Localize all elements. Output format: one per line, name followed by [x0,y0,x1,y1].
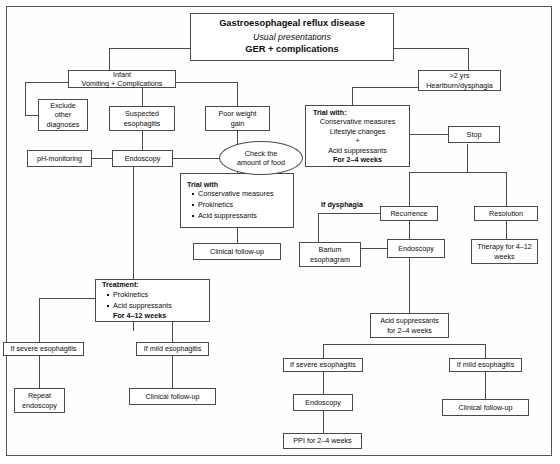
node-over-2-years: >2 yrs Heartburn/dysphagia [418,70,501,91]
connector-acid-branch-right-v [485,344,486,358]
clinical-followup-infant-label: Clinical follow-up [210,247,264,257]
node-recurrence: Recurrence [380,206,438,221]
connector-resolution-to-therapy [506,221,507,239]
over2yrs-line-1: >2 yrs [450,71,470,81]
trial-infant-header: Trial with [184,180,293,190]
trial-infant-item-1: Conservative measures [192,189,274,200]
edge-label-if-dysphagia: If dysphagia [320,200,364,209]
poor-weight-line-1: Poor weight [219,109,257,119]
treatment-header: Treatment: [99,280,209,290]
barium-line-1: Barium [319,245,342,255]
connector-title-to-infant-v2 [109,48,110,70]
repeat-endoscopy-line-2: endoscopy [22,401,57,411]
title-line-3: GER + complications [245,43,338,56]
poor-weight-line-2: gain [231,119,245,129]
connector-endoscopy-to-treatment [133,167,134,279]
connector-endoscopy-to-acid [409,258,410,313]
treatment-footer: For 4–12 weeks [99,311,166,321]
exclude-line-3: diagnoses [47,120,80,130]
connector-recurrence-to-endoscopy [409,221,410,239]
connector-stop-branch-left-v [409,172,410,206]
node-acid-suppressants: Acid suppressants for 2–4 weeks [370,313,449,338]
connector-older-to-trial-v [352,87,353,105]
node-clinical-followup-infant: Clinical follow-up [193,243,281,260]
therapy-line-2: weeks [494,252,514,262]
trial-older-line-2: Lifestyle changes [310,127,405,137]
connector-acid-branch-left-v [323,344,324,358]
stop-label: Stop [467,130,482,140]
connector-barium-to-endoscopy [361,248,387,249]
node-ppi-2-4-weeks: PPI for 2–4 weeks [283,433,362,449]
connector-treatment-down [133,322,134,331]
if-mild-right-label: If mild esophagitis [457,360,515,370]
trial-infant-item-3: Acid suppressants [192,211,274,222]
node-exclude-other-diagnoses: Exclude other diagnoses [38,99,88,131]
endoscopy-left-label: Endoscopy [125,154,161,164]
connector-title-to-older-h [394,48,469,49]
if-mild-left-label: If mild esophagitis [144,344,202,354]
node-resolution: Resolution [474,206,538,221]
trial-older-footer: For 2–4 weeks [310,155,405,165]
connector-acid-branch-h [323,344,486,345]
clinical-followup-left-label: Clinical follow-up [146,392,200,402]
treatment-item-1: Prokinetics [107,290,172,301]
node-if-mild-esophagitis-right: If mild esophagitis [449,358,522,372]
node-if-severe-esophagitis-right: If severe esophagitis [283,358,363,372]
if-severe-right-label: If severe esophagitis [290,360,356,370]
connector-suspected-to-endoscopy [142,131,143,150]
suspected-line-2: esophagitis [124,119,160,129]
title-line-2: Usual presentations [253,31,331,44]
connector-endoscopy-bottom-to-ppi [323,411,324,433]
exclude-line-1: Exclude [50,101,76,111]
infant-line-2: Vomiting + Complications [82,79,163,89]
treatment-list: Prokinetics Acid suppressants [99,290,172,312]
node-endoscopy-left: Endoscopy [112,150,173,167]
connector-infant-to-poor-v [237,82,238,106]
node-trial-with-older: Trial with: Conservative measures Lifest… [305,105,410,167]
node-title-box: Gastroesophageal reflux disease Usual pr… [190,13,394,61]
node-barium-esophagram: Barium esophagram [299,242,361,267]
connector-trial-older-to-stop [410,134,448,135]
endoscopy-right-label: Endoscopy [398,244,434,254]
ph-monitoring-label: pH-monitoring [37,154,82,164]
node-poor-weight-gain: Poor weight gain [205,106,270,131]
clinical-followup-right-label: Clinical follow-up [459,403,513,413]
connector-stop-down [467,144,468,172]
connector-ph-to-endoscopy [92,158,112,159]
ppi-label: PPI for 2–4 weeks [293,436,351,446]
barium-line-2: esophagram [310,255,350,265]
trial-older-line-1: Conservative measures [310,117,405,127]
check-food-line-1: Check the [237,149,285,158]
connector-stop-branch-right-v [506,172,507,206]
acid-line-1: Acid suppressants [380,316,439,326]
trial-older-header: Trial with: [310,108,408,118]
node-stop: Stop [448,126,500,143]
connector-severe-right-to-endoscopy [323,372,324,394]
connector-stop-branch-h [409,172,507,173]
node-check-amount-of-food: Check the amount of food [219,141,303,175]
connector-trial-to-followup-infant [237,228,238,243]
exclude-line-2: other [55,110,71,120]
node-trial-with-infant: Trial with Conservative measures Prokine… [180,173,294,228]
node-endoscopy-right: Endoscopy [387,239,445,258]
if-severe-left-label: If severe esophagitis [11,344,77,354]
trial-older-plus: + [310,136,405,146]
connector-infant-to-exclude-v [25,82,26,115]
endoscopy-bottom-label: Endoscopy [305,398,341,408]
node-repeat-endoscopy: Repeat endoscopy [14,388,65,413]
node-treatment: Treatment: Prokinetics Acid suppressants… [95,279,210,322]
trial-infant-list: Conservative measures Prokinetics Acid s… [184,189,274,221]
infant-line-1: Infant [113,70,131,80]
connector-infant-to-exclude-h2 [25,115,38,116]
title-line-1: Gastroesophageal reflux disease [219,17,365,30]
connector-mild-left-to-followup [172,356,173,388]
connector-severe-left-to-repeat [39,356,40,388]
connector-dysphagia-v [318,213,319,242]
node-if-mild-esophagitis-left: If mild esophagitis [136,342,209,356]
node-infant: Infant Vomiting + Complications [68,70,176,88]
connector-title-to-infant-h [109,48,191,49]
node-endoscopy-bottom: Endoscopy [293,394,353,411]
flowchart-canvas: Gastroesophageal reflux disease Usual pr… [0,0,560,464]
repeat-endoscopy-line-1: Repeat [28,391,51,401]
connector-mild-right-to-followup [485,372,486,399]
